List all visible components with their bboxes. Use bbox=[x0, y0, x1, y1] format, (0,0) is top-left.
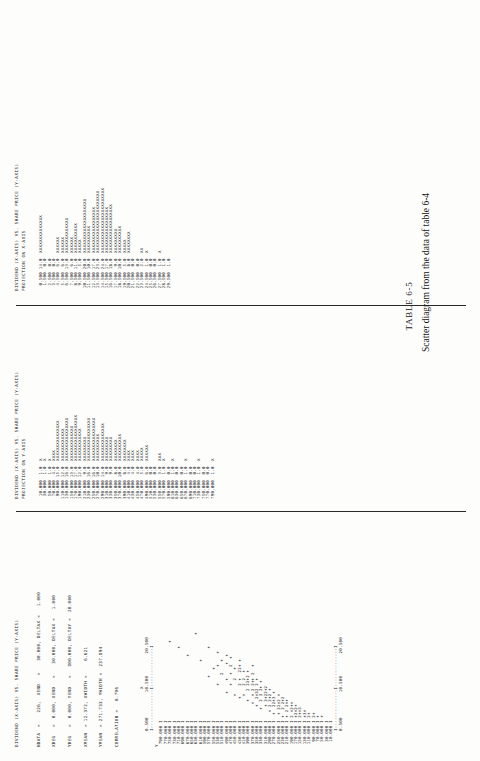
yproj-title-line1: DIVIDEND (X-AXIS) VS. SHARE PRICE (Y-AXI… bbox=[14, 324, 19, 499]
figure-caption: Scatter diagram from the data of table 6… bbox=[420, 260, 432, 352]
yproj-bin-row: 790.000 1.0 X bbox=[211, 324, 215, 499]
xproj-title-line1: DIVIDEND (X-AXIS) VS. SHARE PRICE (Y-AXI… bbox=[14, 116, 19, 291]
scatter-stats: NDATA = 226, XEND = 30.000, DELTAX = 1.0… bbox=[25, 522, 129, 747]
panel-x-projection: DIVIDEND (X-AXIS) VS. SHARE PRICE (Y-AXI… bbox=[14, 116, 469, 291]
stat-row: CORRELATION = 0.796 bbox=[114, 522, 119, 747]
rotated-printout: DIVIDEND (X-AXIS) VS. SHARE PRICE (Y-AXI… bbox=[0, 0, 480, 761]
x-tick-labels-bottom: 0.500 10.500 20.500 bbox=[338, 522, 343, 731]
stat-row: YMEAN = 271.733, YWIDTH = 237.894 bbox=[98, 522, 103, 747]
figure-number: TABLE 6-5 bbox=[404, 260, 414, 352]
scatter-plot-area: X 0.500 10.500 20.500 I--------------I--… bbox=[139, 522, 343, 747]
stat-row: XMEAN = 12.372, XWIDTH = 6.621 bbox=[83, 522, 88, 747]
xproj-title-line2: PROJECTION ON X-AXIS bbox=[21, 116, 26, 291]
stat-row: NDATA = 226, XEND = 30.000, DELTAX = 1.0… bbox=[36, 522, 41, 747]
yproj-title-line2: PROJECTION ON Y-AXIS bbox=[21, 324, 26, 499]
scatter-title: DIVIDEND (X-AXIS) VS. SHARE PRICE (Y-AXI… bbox=[14, 522, 19, 747]
panel-divider-2 bbox=[16, 305, 466, 306]
stat-row: XBEG = 0.000, XEND = 30.000, DELTAX = 1.… bbox=[51, 522, 56, 747]
xproj-histogram-rows: 0.500 14.0 XXXXXXXXXXXXXX 1.500 0.0 2.50… bbox=[39, 116, 171, 291]
figure-caption-block: TABLE 6-5 Scatter diagram from the data … bbox=[404, 260, 432, 352]
printout-sheet: DIVIDEND (X-AXIS) VS. SHARE PRICE (Y-AXI… bbox=[0, 0, 480, 761]
printout-page: DIVIDEND (X-AXIS) VS. SHARE PRICE (Y-AXI… bbox=[0, 0, 480, 761]
panel-divider-1 bbox=[16, 511, 466, 512]
panel-y-projection: DIVIDEND (X-AXIS) VS. SHARE PRICE (Y-AXI… bbox=[14, 324, 469, 499]
panel-scatter-diagram: DIVIDEND (X-AXIS) VS. SHARE PRICE (Y-AXI… bbox=[14, 522, 469, 747]
stat-row: YBEG = 0.000, YEND = 800.000, DELTAY = 2… bbox=[67, 522, 72, 747]
xproj-bin-row: 29.500 1.0 bbox=[167, 116, 171, 291]
yproj-histogram-rows: 10.000 1.0 X 30.000 1.0 X 50.000 1.0 X 7… bbox=[39, 324, 215, 499]
scatter-rows: 790.000 I 770.000 I 750.000 I + 730.000 … bbox=[159, 522, 333, 747]
